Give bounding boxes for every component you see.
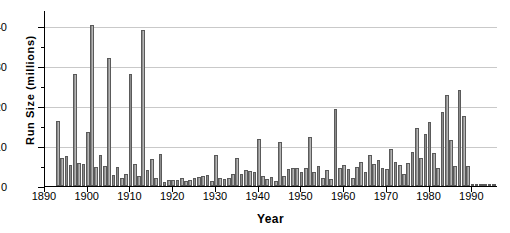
y-axis-title: Run Size (millions) [24, 0, 36, 180]
bar [218, 178, 222, 186]
bar [381, 168, 385, 186]
bar [184, 181, 188, 186]
bar [240, 174, 244, 186]
y-tick-minor [41, 127, 44, 128]
bar [159, 154, 163, 186]
y-tick-minor [41, 167, 44, 168]
bar [107, 58, 111, 186]
bar [278, 142, 282, 186]
bar [364, 172, 368, 186]
bar [295, 168, 299, 186]
bar [338, 168, 342, 186]
x-tick-label: 1970 [363, 190, 409, 202]
bar [368, 155, 372, 186]
bar [325, 170, 329, 186]
x-tick-label: 1890 [21, 190, 67, 202]
x-tick-label: 1990 [448, 190, 494, 202]
bar [402, 174, 406, 186]
x-tick-label: 1940 [235, 190, 281, 202]
bar [398, 165, 402, 186]
x-axis-title: Year [44, 212, 497, 226]
bar [154, 178, 158, 186]
bar [321, 178, 325, 186]
bar [432, 153, 436, 186]
bar [492, 184, 496, 186]
bar [488, 184, 492, 186]
x-tick-label: 1910 [106, 190, 152, 202]
bar [347, 169, 351, 186]
x-tick-label: 1930 [192, 190, 238, 202]
bar [359, 162, 363, 186]
bar [248, 171, 252, 186]
bar [90, 25, 94, 186]
bar [415, 128, 419, 186]
bar [389, 149, 393, 186]
bar [137, 176, 141, 186]
bar [334, 109, 338, 186]
y-tick-label: 0 [0, 181, 7, 193]
bar [304, 168, 308, 186]
bar [411, 152, 415, 186]
bar [180, 178, 184, 186]
bar [462, 116, 466, 186]
bar [99, 155, 103, 186]
bar [351, 178, 355, 186]
y-tick-label: 20 [0, 101, 7, 113]
bar [146, 170, 150, 186]
bar [300, 172, 304, 186]
bar [65, 156, 69, 186]
plot-area [44, 11, 497, 187]
bar [287, 169, 291, 186]
bar [124, 174, 128, 186]
bar [112, 175, 116, 186]
x-tick-label: 1980 [406, 190, 452, 202]
bar [176, 180, 180, 186]
bar [471, 184, 475, 186]
bar [133, 164, 137, 186]
bar [171, 180, 175, 186]
bar [282, 176, 286, 186]
bar [449, 140, 453, 186]
bar [77, 163, 81, 186]
bar [223, 179, 227, 186]
bar [342, 165, 346, 186]
bar [163, 182, 167, 186]
bar [445, 95, 449, 186]
bar [257, 139, 261, 186]
bar [94, 167, 98, 186]
bar [56, 121, 60, 186]
x-tick-label: 1920 [149, 190, 195, 202]
bar [265, 179, 269, 186]
bar [201, 176, 205, 186]
bar [60, 158, 64, 186]
bar [458, 90, 462, 186]
bar [167, 180, 171, 186]
bar [308, 137, 312, 186]
bar [261, 176, 265, 186]
y-tick-label: 30 [0, 61, 7, 73]
bar [231, 174, 235, 186]
y-tick-major [38, 67, 44, 68]
bar [227, 178, 231, 186]
bar [441, 112, 445, 186]
bar [453, 166, 457, 186]
bar [428, 122, 432, 186]
bar [291, 168, 295, 186]
bar [312, 172, 316, 186]
bar [188, 180, 192, 186]
y-tick-label: 10 [0, 141, 7, 153]
bar [73, 74, 77, 186]
x-tick-label: 1950 [277, 190, 323, 202]
bar [479, 184, 483, 186]
bar [355, 167, 359, 186]
y-tick-label: 40 [0, 21, 7, 33]
bar [424, 134, 428, 186]
bar [120, 178, 124, 186]
bar [372, 164, 376, 186]
bar [483, 184, 487, 186]
bar [206, 175, 210, 186]
bar [253, 172, 257, 186]
bar [406, 163, 410, 186]
x-tick-label: 1900 [64, 190, 110, 202]
bar [436, 168, 440, 186]
